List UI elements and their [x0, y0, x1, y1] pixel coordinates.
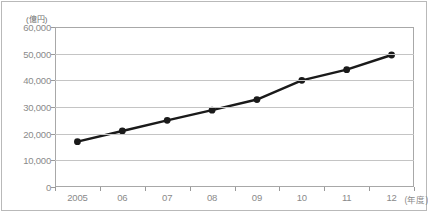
- y-axis-tick-mark: [51, 54, 55, 55]
- x-axis-tick-mark: [145, 187, 146, 191]
- y-axis-tick-label: 30,000: [5, 102, 51, 113]
- x-axis-tick-label: 09: [252, 192, 262, 203]
- x-axis-tick-label: 12: [386, 192, 396, 203]
- data-point-marker: [74, 138, 81, 145]
- gridline: [55, 107, 414, 108]
- x-axis-tick-label: 10: [297, 192, 307, 203]
- y-axis-tick-label: 10,000: [5, 155, 51, 166]
- y-axis-tick-mark: [51, 27, 55, 28]
- x-axis-tick-label: 07: [162, 192, 172, 203]
- x-axis-tick-label: 11: [342, 192, 351, 203]
- y-axis-tick-mark: [51, 80, 55, 81]
- x-axis-tick-label: 2005: [67, 192, 87, 203]
- x-axis-tick-label: 06: [117, 192, 127, 203]
- line-chart-figure: (億円) 60,00050,00040,00030,00020,00010,00…: [0, 0, 428, 224]
- x-axis-tick-mark: [100, 187, 101, 191]
- data-point-marker: [164, 117, 171, 124]
- y-axis-tick-label: 60,000: [5, 22, 51, 33]
- x-axis-tick-mark: [235, 187, 236, 191]
- gridline: [55, 134, 414, 135]
- y-axis-tick-label: 50,000: [5, 48, 51, 59]
- y-axis-tick-mark: [51, 107, 55, 108]
- x-axis-tick-mark: [190, 187, 191, 191]
- gridline: [55, 160, 414, 161]
- y-axis-tick-label: 40,000: [5, 75, 51, 86]
- data-point-marker: [254, 96, 261, 103]
- y-axis-tick-mark: [51, 134, 55, 135]
- y-axis-tick-label: 20,000: [5, 128, 51, 139]
- plot-area: [55, 27, 414, 187]
- y-axis-tick-label: 0: [5, 182, 51, 193]
- gridline: [55, 54, 414, 55]
- y-axis-tick-mark: [51, 160, 55, 161]
- gridline: [55, 80, 414, 81]
- gridline: [55, 27, 414, 28]
- data-point-marker: [388, 52, 395, 59]
- y-axis-tick-labels: 60,00050,00040,00030,00020,00010,0000: [5, 0, 51, 224]
- x-axis-tick-labels: 200506070809101112(年度): [0, 192, 428, 210]
- x-axis-unit-label: (年度): [405, 193, 428, 205]
- x-axis-tick-mark: [55, 187, 56, 191]
- x-axis-tick-mark: [279, 187, 280, 191]
- data-point-marker: [343, 66, 350, 73]
- x-axis-tick-mark: [324, 187, 325, 191]
- x-axis-tick-label: 08: [207, 192, 217, 203]
- x-axis-tick-mark: [369, 187, 370, 191]
- x-axis-tick-mark: [414, 187, 415, 191]
